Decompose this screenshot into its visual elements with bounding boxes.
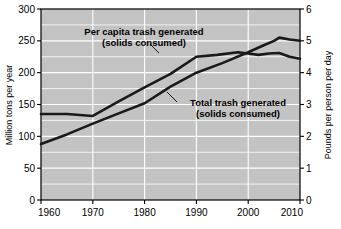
y-axis-ticks: 050100150200250300 xyxy=(18,4,41,206)
y2-tick-label: 6 xyxy=(306,4,312,15)
x-tick-label: 1990 xyxy=(185,207,208,218)
x-axis-ticks: 196019701980199020002010 xyxy=(38,200,303,218)
x-tick-label: 1960 xyxy=(38,207,61,218)
total-trash-annotation-line2: (solids consumed) xyxy=(196,108,280,119)
y-tick-label: 300 xyxy=(18,4,35,15)
y2-tick-label: 3 xyxy=(306,99,312,110)
y2-tick-label: 4 xyxy=(306,67,312,78)
x-tick-label: 2010 xyxy=(281,207,304,218)
y-tick-label: 200 xyxy=(18,67,35,78)
x-tick-label: 2000 xyxy=(237,207,260,218)
trash-generation-line-chart: 050100150200250300 0123456 1960197019801… xyxy=(0,0,341,229)
chart-container: 050100150200250300 0123456 1960197019801… xyxy=(0,0,341,229)
per-capita-annotation-line2: (solids consumed) xyxy=(102,37,186,48)
y-tick-label: 50 xyxy=(24,163,36,174)
per-capita-annotation-line1: Per capita trash generated xyxy=(84,26,204,37)
x-tick-label: 1970 xyxy=(82,207,105,218)
y-axis-title: Million tons per year xyxy=(4,65,14,146)
y-tick-label: 150 xyxy=(18,99,35,110)
y2-tick-label: 0 xyxy=(306,195,312,206)
y-tick-label: 100 xyxy=(18,131,35,142)
y2-tick-label: 1 xyxy=(306,163,312,174)
y2-axis-ticks: 0123456 xyxy=(300,4,312,206)
y-tick-label: 0 xyxy=(29,195,35,206)
y2-axis-title: Pounds per person per day xyxy=(323,50,333,159)
x-tick-label: 1980 xyxy=(133,207,156,218)
y2-tick-label: 5 xyxy=(306,35,312,46)
y-tick-label: 250 xyxy=(18,35,35,46)
total-trash-annotation-line1: Total trash generated xyxy=(190,97,286,108)
y2-tick-label: 2 xyxy=(306,131,312,142)
